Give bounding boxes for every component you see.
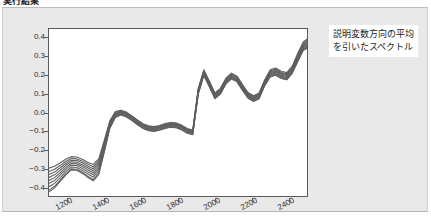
spectrum-line: [49, 39, 307, 168]
figure-panel: −0.4−0.3−0.2−0.10.00.10.20.30.4 12001400…: [2, 7, 428, 212]
y-axis-tick-label: −0.2: [11, 146, 45, 154]
screenshot-root: 実行結果 −0.4−0.3−0.2−0.10.00.10.20.30.4 120…: [0, 0, 431, 223]
annotation-line-2: を引いたスペクトル: [333, 41, 414, 54]
x-axis-tick-label: 1800: [165, 196, 185, 212]
y-axis-tick-label: −0.1: [11, 127, 45, 135]
x-axis-tick-mark: [104, 198, 105, 202]
x-axis-tick-mark: [252, 198, 253, 202]
y-axis-tick-label: −0.4: [11, 184, 45, 192]
y-axis-tick-label: 0.2: [11, 71, 45, 79]
x-axis-tick-label: 1400: [91, 196, 111, 212]
x-axis-tick-label: 2400: [276, 196, 296, 212]
x-axis-tick-mark: [215, 198, 216, 202]
x-axis-tick-label: 1600: [128, 196, 148, 212]
x-axis-tick-mark: [289, 198, 290, 202]
spectra-line-chart: [49, 29, 307, 196]
annotation-textbox: 説明変数方向の平均 を引いたスペクトル: [329, 25, 418, 57]
x-axis-tick-mark: [67, 198, 68, 202]
y-axis-tick-label: 0.0: [11, 109, 45, 117]
spectrum-line: [49, 43, 307, 178]
x-axis-tick-label: 2200: [239, 196, 259, 212]
y-axis-tick-label: 0.4: [11, 33, 45, 41]
x-axis-tick-mark: [178, 198, 179, 202]
spectrum-line: [49, 48, 307, 191]
spectrum-line: [49, 42, 307, 175]
spectrum-line: [49, 40, 307, 171]
x-axis-tick-label: 2000: [202, 196, 222, 212]
y-axis-tick-labels: −0.4−0.3−0.2−0.10.00.10.20.30.4: [7, 28, 45, 197]
x-axis-tick-label: 1200: [54, 196, 74, 212]
y-axis-tick-label: −0.3: [11, 165, 45, 173]
page-title: 実行結果: [3, 0, 39, 5]
annotation-line-1: 説明変数方向の平均: [333, 28, 414, 41]
spectrum-line: [49, 44, 307, 181]
y-axis-tick-label: 0.3: [11, 52, 45, 60]
x-axis-tick-labels: 1200140016001800200022002400: [48, 198, 310, 223]
x-axis-tick-mark: [141, 198, 142, 202]
y-axis-tick-label: 0.1: [11, 90, 45, 98]
spectrum-line: [49, 48, 307, 192]
plot-area: [48, 28, 308, 197]
